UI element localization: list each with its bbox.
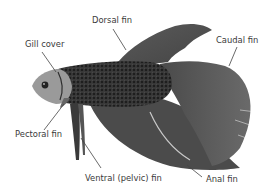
label-dorsal-fin: Dorsal fin [92,15,132,25]
label-anal-fin: Anal fin [206,174,238,184]
betta-fish-illustration [0,0,279,190]
label-caudal-fin: Caudal fin [216,35,258,45]
label-ventral-fin: Ventral (pelvic) fin [85,173,162,183]
label-pectoral-fin: Pectoral fin [15,129,62,139]
ventral-fin-shape [70,104,80,160]
label-gill-cover: Gill cover [25,39,64,49]
dorsal-fin-shape [118,24,212,64]
fish-anatomy-diagram: Dorsal fin Gill cover Caudal fin Pectora… [0,0,279,190]
eye-shape [42,82,49,89]
